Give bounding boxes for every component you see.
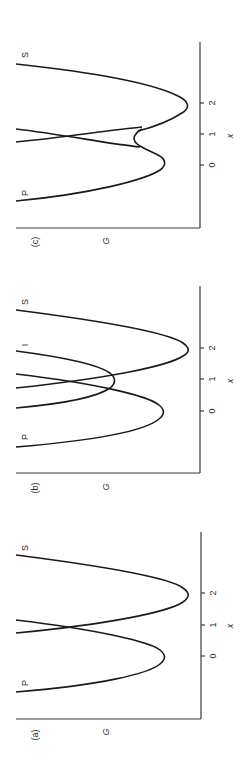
curve-label-s: S — [20, 545, 30, 551]
panel-label: (b) — [30, 482, 40, 493]
curve-p-upper — [16, 129, 140, 147]
g-axis-label: G — [101, 237, 111, 244]
panel-label: (a) — [30, 729, 40, 740]
tick-label-0: 0 — [207, 408, 217, 413]
curve-envelope-hump — [134, 129, 142, 146]
tick-label-2: 2 — [207, 100, 217, 105]
figure: 2 1 0 x G (c) S P 2 1 0 x G (b) S I P — [0, 0, 245, 766]
curve-i — [16, 351, 115, 408]
tick-label-2: 2 — [208, 590, 218, 595]
curve-label-p: P — [20, 434, 30, 440]
curve-label-s: S — [20, 52, 30, 58]
tick-label-2: 2 — [207, 345, 217, 350]
tick-label-0: 0 — [208, 653, 218, 658]
curve-s — [16, 64, 188, 131]
curve-s — [16, 310, 188, 388]
panel-label: (c) — [30, 237, 40, 248]
x-axis-label: x — [225, 623, 235, 629]
curve-label-s: S — [20, 299, 30, 305]
tick-label-1: 1 — [207, 376, 217, 381]
tick-label-1: 1 — [207, 131, 217, 136]
curve-label-p: P — [20, 190, 30, 196]
curve-p — [16, 146, 165, 201]
panel-c: 2 1 0 x G (c) S P — [16, 42, 235, 247]
tick-label-1: 1 — [208, 622, 218, 627]
x-axis-label: x — [225, 133, 235, 139]
curve-s-lower — [16, 127, 142, 142]
panel-a: 2 1 0 x G (a) S P — [16, 532, 235, 741]
g-axis-label: G — [101, 483, 111, 490]
curve-s — [16, 555, 188, 633]
x-axis-label: x — [225, 378, 235, 384]
curve-label-i: I — [20, 344, 30, 347]
tick-label-0: 0 — [207, 162, 217, 167]
curve-label-p: P — [20, 680, 30, 686]
g-axis-label: G — [101, 728, 111, 735]
panel-b: 2 1 0 x G (b) S I P — [16, 286, 235, 494]
